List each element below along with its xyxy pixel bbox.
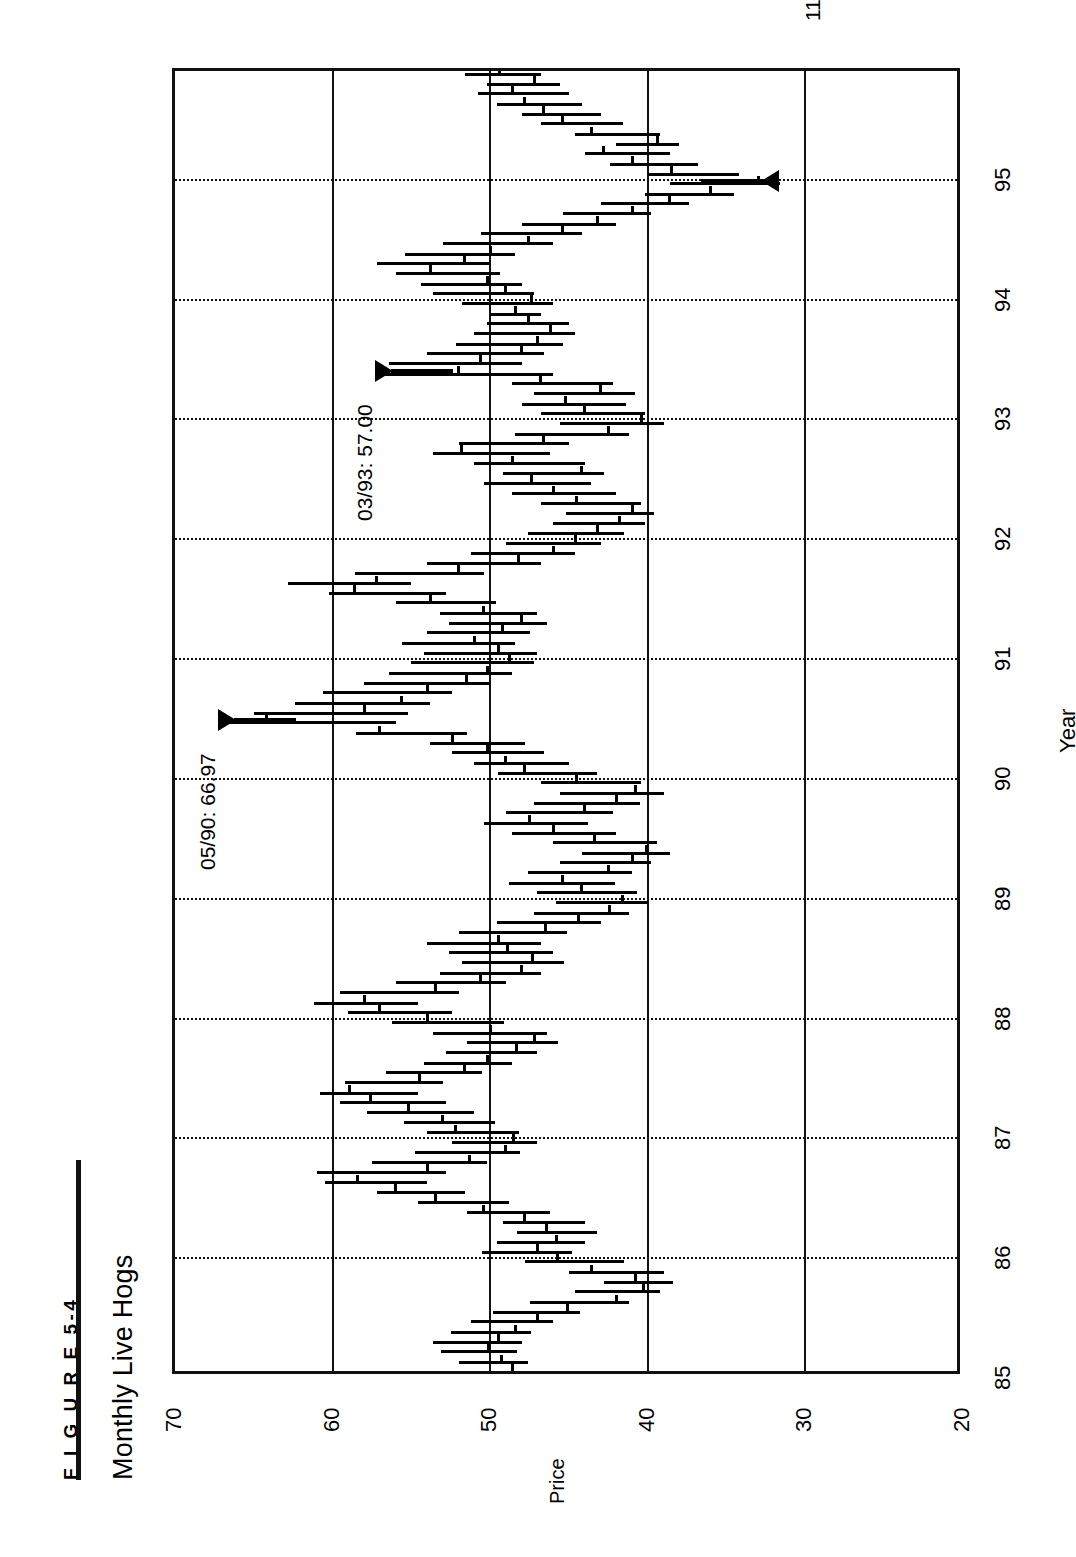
hlc-bar	[506, 542, 601, 545]
close-tick	[515, 1044, 518, 1053]
close-tick	[487, 1344, 490, 1353]
close-tick	[593, 835, 596, 844]
hlc-bar	[427, 1131, 518, 1134]
hlc-bar	[515, 433, 628, 436]
year-gridline-95	[175, 179, 957, 181]
hlc-bar	[604, 1281, 673, 1284]
close-tick	[486, 1055, 489, 1064]
close-tick	[564, 396, 567, 405]
year-tick-92: 92	[990, 527, 1016, 551]
close-tick	[520, 965, 523, 974]
hlc-bar	[404, 1121, 495, 1124]
hlc-bar	[484, 822, 588, 825]
hlc-bar	[528, 532, 624, 535]
close-tick	[504, 286, 507, 295]
close-tick	[618, 516, 621, 525]
hlc-bar	[433, 452, 550, 455]
close-tick	[533, 76, 536, 85]
close-tick	[621, 895, 624, 904]
close-tick	[441, 1115, 444, 1124]
hlc-bar	[481, 232, 582, 235]
close-tick	[523, 1214, 526, 1223]
hlc-bar	[497, 921, 601, 924]
hlc-bar	[575, 133, 660, 136]
year-gridline-90	[175, 778, 957, 780]
hlc-bar	[487, 83, 559, 86]
price-tick-30: 30	[791, 1408, 817, 1432]
hlc-bar	[427, 631, 529, 634]
close-tick	[482, 1205, 485, 1214]
hlc-bar	[405, 253, 515, 256]
hlc-bar	[566, 512, 654, 515]
hlc-bar	[392, 1021, 504, 1024]
hlc-bar	[471, 1320, 553, 1323]
hlc-bar	[503, 472, 604, 475]
hlc-bar	[462, 302, 553, 305]
hlc-bar	[616, 143, 679, 146]
close-tick	[486, 745, 489, 754]
figure-number-label: F I G U R E 5-4	[60, 1297, 82, 1480]
year-tick-87: 87	[990, 1126, 1016, 1150]
close-tick	[575, 775, 578, 784]
close-tick	[533, 1035, 536, 1044]
close-tick	[465, 675, 468, 684]
close-tick	[580, 466, 583, 475]
close-tick	[497, 645, 500, 654]
hlc-bar	[314, 1002, 418, 1005]
hlc-bar	[449, 951, 553, 954]
close-tick	[539, 376, 542, 385]
close-tick	[596, 216, 599, 225]
close-tick	[378, 726, 381, 735]
hlc-bar	[556, 901, 647, 904]
hlc-bar	[418, 1201, 509, 1204]
hlc-bar	[541, 122, 623, 125]
hlc-bar	[474, 332, 575, 335]
hlc-bar	[585, 152, 670, 155]
year-tick-89: 89	[990, 886, 1016, 910]
hlc-bar	[345, 1081, 443, 1084]
close-tick	[561, 226, 564, 235]
hlc-bar	[424, 652, 537, 655]
hlc-bar	[396, 981, 506, 984]
close-tick	[631, 505, 634, 514]
hlc-bar	[459, 931, 568, 934]
hlc-bar	[575, 1290, 660, 1293]
close-tick	[463, 1065, 466, 1074]
close-tick	[460, 445, 463, 454]
close-tick	[434, 1194, 437, 1203]
hlc-bar	[254, 712, 408, 715]
close-tick	[454, 1125, 457, 1134]
hlc-bar	[295, 702, 431, 705]
hlc-bar	[522, 223, 617, 226]
close-tick	[640, 415, 643, 424]
close-tick	[668, 196, 671, 205]
hlc-bar	[560, 422, 664, 425]
close-tick	[511, 86, 514, 95]
close-tick	[552, 546, 555, 555]
hlc-bar	[427, 942, 540, 945]
hlc-bar	[424, 1062, 512, 1065]
hlc-bar	[541, 502, 642, 505]
hlc-bar	[467, 1041, 558, 1044]
hlc-bar	[386, 1071, 482, 1074]
close-tick	[631, 206, 634, 215]
hlc-bar	[364, 682, 490, 685]
close-tick	[670, 166, 673, 175]
hlc-bar	[433, 1341, 521, 1344]
hlc-bar	[451, 1331, 531, 1334]
close-tick	[520, 615, 523, 624]
hlc-bar	[355, 572, 484, 575]
price-tick-60: 60	[319, 1408, 345, 1432]
hlc-bar	[356, 732, 466, 735]
hlc-bar	[474, 462, 584, 465]
close-tick	[575, 496, 578, 505]
annotation-label-peak-1990: 05/90: 66.97	[196, 753, 220, 870]
hlc-bar	[329, 592, 446, 595]
hlc-bar	[377, 262, 490, 265]
close-tick	[602, 146, 605, 155]
close-tick	[634, 785, 637, 794]
hlc-bar	[522, 403, 626, 406]
close-tick	[645, 845, 648, 854]
hlc-bar	[459, 1361, 528, 1364]
hlc-bar	[648, 173, 739, 176]
